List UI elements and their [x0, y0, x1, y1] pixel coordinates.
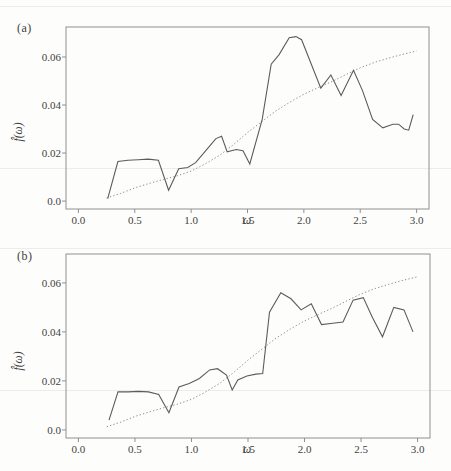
- y-tick-label: 0.0: [28, 424, 61, 436]
- y-tick-label: 0.04: [28, 326, 61, 338]
- panel-label-a: (a): [17, 21, 32, 36]
- x-tick-label: 1.5: [233, 214, 263, 226]
- y-axis-title-b: f̂(ω): [12, 331, 28, 391]
- x-tick-label: 2.0: [290, 443, 320, 455]
- x-tick-label: 1.5: [233, 443, 263, 455]
- x-tick-label: 1.0: [176, 443, 206, 455]
- x-tick-label: 0.5: [120, 214, 150, 226]
- x-tick-label: 3.0: [403, 443, 433, 455]
- spectral-estimate-line: [109, 293, 413, 420]
- true-spectrum-line: [107, 277, 418, 427]
- x-tick-label: 1.0: [176, 214, 206, 226]
- y-axis-title-a: f̂(ω): [12, 102, 28, 162]
- spectral-estimate-line: [108, 37, 414, 199]
- spectral-density-plots: [0, 0, 451, 471]
- x-tick-label: 2.5: [345, 214, 375, 226]
- y-tick-label: 0.06: [28, 277, 61, 289]
- x-tick-label: 2.0: [289, 214, 319, 226]
- figure-canvas: (a) (b) f̂(ω) f̂(ω) ω ω 0.00.51.01.52.02…: [0, 0, 451, 471]
- x-tick-label: 2.5: [346, 443, 376, 455]
- y-tick-label: 0.04: [28, 99, 61, 111]
- y-tick-label: 0.0: [28, 195, 61, 207]
- x-tick-label: 0.0: [63, 214, 93, 226]
- y-tick-label: 0.02: [28, 147, 61, 159]
- panel-label-b: (b): [17, 249, 33, 264]
- true-spectrum-line: [107, 51, 417, 198]
- x-tick-label: 0.0: [63, 443, 93, 455]
- y-tick-label: 0.06: [28, 51, 61, 63]
- x-tick-label: 0.5: [120, 443, 150, 455]
- plot-frame: [66, 27, 429, 209]
- plot-frame: [66, 254, 430, 438]
- x-tick-label: 3.0: [402, 214, 432, 226]
- y-tick-label: 0.02: [28, 375, 61, 387]
